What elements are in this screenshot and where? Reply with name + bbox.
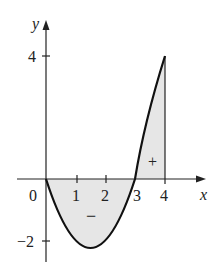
tick-label-x1: 1 (72, 187, 80, 204)
minus-region-label: − (86, 206, 96, 226)
plus-region-label: + (148, 153, 157, 170)
tick-label-x4: 4 (160, 187, 168, 204)
tick-label-x3: 3 (133, 187, 141, 204)
origin-label: 0 (29, 187, 37, 204)
tick-label-yneg2: −2 (17, 233, 34, 250)
x-axis-arrow-icon (196, 176, 206, 183)
tick-label-x2: 2 (101, 187, 109, 204)
function-graph: y x 0 1 2 3 4 4 −2 − + (0, 0, 222, 262)
x-axis-label: x (199, 186, 207, 203)
y-axis-arrow-icon (43, 20, 50, 30)
y-axis-label: y (30, 15, 40, 33)
tick-label-y4: 4 (28, 48, 36, 65)
